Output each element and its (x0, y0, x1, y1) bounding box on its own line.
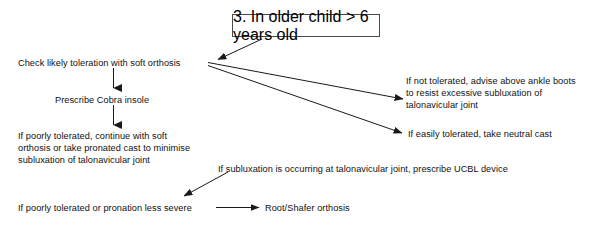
node-poorly-tolerated-line-3: subluxation of talonavicular joint (18, 154, 150, 166)
edge-ucbl-to-pronation-less-severe (184, 172, 228, 196)
title-box-label: 3. In older child > 6 years old (233, 8, 379, 44)
node-root-shafer-orthosis: Root/Shafer orthosis (265, 202, 350, 214)
edge-check-to-not-tolerated (208, 63, 403, 100)
node-prescribe-cobra: Prescribe Cobra insole (55, 94, 149, 106)
node-not-tolerated-line-3: talonavicular joint (406, 99, 478, 111)
node-not-tolerated-line-1: If not tolerated, advise above ankle boo… (406, 75, 576, 87)
node-not-tolerated-line-2: to resist excessive subluxation of (406, 87, 542, 99)
node-poorly-tolerated-line-2: orthosis or take pronated cast to minimi… (18, 142, 190, 154)
node-check-toleration: Check likely toleration with soft orthos… (18, 57, 180, 69)
edge-check-to-easily-tolerated (208, 66, 402, 134)
title-box[interactable]: 3. In older child > 6 years old (232, 14, 380, 37)
node-subluxation-ucbl: If subluxation is occurring at talonavic… (218, 163, 508, 175)
flowchart-canvas: 3. In older child > 6 years old Check li… (0, 0, 616, 226)
node-easily-tolerated: If easily tolerated, take neutral cast (408, 128, 552, 140)
node-poorly-tolerated-line-1: If poorly tolerated, continue with soft (18, 130, 167, 142)
node-poorly-tolerated-or-pronation: If poorly tolerated or pronation less se… (18, 202, 192, 214)
